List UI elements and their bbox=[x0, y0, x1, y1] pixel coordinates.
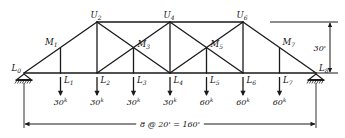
node-label-l5: L5 bbox=[209, 75, 220, 86]
load-arrow-head-l6 bbox=[240, 91, 245, 96]
node-label-m5: M5 bbox=[210, 39, 224, 50]
load-arrow-head-l1 bbox=[58, 91, 63, 96]
node-label-m3: M3 bbox=[137, 39, 151, 50]
node-label-u6: U6 bbox=[237, 10, 248, 21]
span-arrow-left bbox=[25, 122, 30, 127]
node-label-l1: L1 bbox=[63, 75, 73, 86]
truss-diagram-canvas: U2U4U6M1M3M5M7L0L8L1L2L3L4L5L6L730k30k30… bbox=[0, 0, 345, 138]
truss-loading-diagram: U2U4U6M1M3M5M7L0L8L1L2L3L4L5L6L730k30k30… bbox=[0, 0, 345, 138]
node-label-m1: M1 bbox=[44, 37, 58, 48]
node-label-l0: L0 bbox=[11, 63, 22, 74]
node-label-l7: L7 bbox=[282, 75, 293, 86]
load-value-l6: 60k bbox=[236, 97, 250, 107]
load-value-l7: 60k bbox=[273, 97, 287, 107]
node-label-u4: U4 bbox=[164, 10, 175, 21]
load-arrow-head-l4 bbox=[167, 91, 172, 96]
load-arrow-head-l7 bbox=[277, 91, 282, 96]
load-arrow-head-l2 bbox=[94, 91, 99, 96]
load-arrow-head-l5 bbox=[204, 91, 209, 96]
node-label-m7: M7 bbox=[282, 37, 296, 48]
node-label-l6: L6 bbox=[246, 75, 257, 86]
load-value-l1: 30k bbox=[54, 97, 68, 107]
height-dimension-label: 30' bbox=[314, 44, 326, 53]
load-value-l3: 30k bbox=[127, 97, 141, 107]
roller-support-l8-triangle bbox=[309, 74, 323, 80]
height-arrow-top bbox=[328, 23, 332, 28]
node-label-l4: L4 bbox=[173, 75, 184, 86]
load-value-l2: 30k bbox=[90, 97, 104, 107]
load-value-l4: 30k bbox=[163, 97, 177, 107]
span-dimension-label: 8 @ 20' = 160' bbox=[140, 120, 200, 129]
node-label-u2: U2 bbox=[91, 10, 102, 21]
load-value-l5: 60k bbox=[200, 97, 214, 107]
node-label-l3: L3 bbox=[136, 75, 147, 86]
node-label-l2: L2 bbox=[100, 75, 111, 86]
load-arrow-head-l3 bbox=[131, 91, 136, 96]
pinned-support-l0-triangle bbox=[17, 74, 31, 80]
span-arrow-right bbox=[311, 122, 316, 127]
